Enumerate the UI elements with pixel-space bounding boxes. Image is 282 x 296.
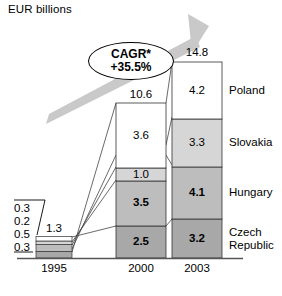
chart-canvas: EUR billions	[0, 0, 282, 296]
legend-label-poland: Poland	[229, 84, 265, 97]
x-tick-1995: 1995	[24, 262, 84, 274]
total-label-2003: 14.8	[167, 46, 227, 58]
legend-label-hungary: Hungary	[229, 186, 272, 199]
segment-value-hungary-2003: 4.1	[172, 186, 222, 198]
legend-label-slovakia: Slovakia	[229, 136, 272, 149]
total-label-1995: 1.3	[22, 222, 86, 234]
callout-value-czech-1995: 0.3	[0, 241, 30, 253]
legend-label-czech-line1: Czech	[229, 226, 274, 239]
segment-value-poland-2003: 4.2	[172, 84, 222, 96]
legend-label-czech-republic: Czech Republic	[229, 226, 274, 251]
cagr-callout: CAGR* +35.5%	[88, 42, 174, 80]
callout-value-poland-1995: 0.3	[0, 202, 30, 214]
segment-value-slovakia-2000: 1.0	[116, 168, 166, 180]
segment-value-slovakia-2003: 3.3	[172, 136, 222, 148]
cagr-text: CAGR* +35.5%	[88, 42, 174, 80]
x-tick-2000: 2000	[111, 262, 171, 274]
segment-value-czech-2003: 3.2	[172, 232, 222, 244]
segment-value-czech-2000: 2.5	[116, 235, 166, 247]
x-tick-2003: 2003	[167, 262, 227, 274]
cagr-line2: +35.5%	[110, 61, 151, 75]
callout-value-hungary-1995: 0.5	[0, 228, 30, 240]
callout-value-slovakia-1995: 0.2	[0, 215, 30, 227]
total-label-2000: 10.6	[111, 88, 171, 100]
legend-label-czech-line2: Republic	[229, 239, 274, 252]
segment-value-poland-2000: 3.6	[116, 129, 166, 141]
cagr-line1: CAGR*	[111, 48, 151, 62]
segment-value-hungary-2000: 3.5	[116, 196, 166, 208]
